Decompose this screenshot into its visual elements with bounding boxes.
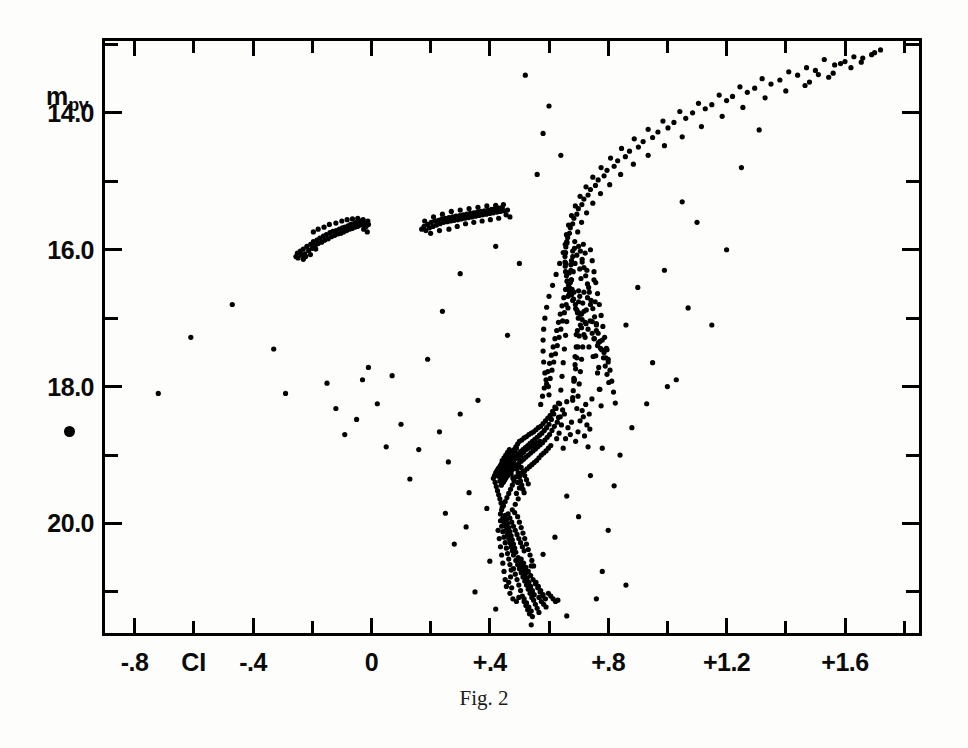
- figure-caption: Fig. 2: [0, 686, 968, 711]
- scatter-series-subgiant-branch: [510, 399, 570, 477]
- y-tick-left-20: [105, 522, 122, 525]
- y-tick-right-18: [902, 385, 919, 388]
- y-tick-left-13: [105, 43, 118, 46]
- y-tick-left-18: [105, 385, 122, 388]
- y-tick-right-14: [902, 111, 919, 114]
- size-reference-dot: [64, 426, 75, 437]
- y-tick-label-3: 20.0: [20, 509, 94, 538]
- y-tick-left-16: [105, 248, 122, 251]
- x-axis-title: CI: [181, 648, 206, 677]
- x-tick-label-0: -.8: [121, 648, 149, 677]
- y-tick-label-1: 16.0: [20, 235, 94, 264]
- y-tick-label-2: 18.0: [20, 372, 94, 401]
- x-tick-bottom-1.8: [903, 621, 906, 633]
- scatter-points-layer: [105, 41, 919, 633]
- y-tick-right-17: [906, 317, 919, 320]
- x-tick-bottom--0.6: [192, 621, 195, 633]
- x-tick-bottom--0.4: [252, 618, 255, 633]
- y-tick-label-0: 14.0: [20, 98, 94, 127]
- x-tick-top-0.2: [429, 41, 432, 53]
- x-tick-top-0.4: [488, 41, 491, 56]
- x-tick-bottom-0.2: [429, 621, 432, 633]
- x-tick-top--0.4: [252, 41, 255, 56]
- plot-frame: [102, 38, 922, 636]
- scatter-series-blue-horizontal-branch: [293, 216, 371, 262]
- scatter-series-red-horizontal-branch-clump: [419, 202, 512, 236]
- x-tick-top-0.6: [548, 41, 551, 53]
- y-tick-right-19: [906, 454, 919, 457]
- y-tick-left-19: [105, 454, 118, 457]
- y-tick-left-17: [105, 317, 118, 320]
- x-tick-top-1.6: [844, 41, 847, 56]
- y-tick-left-21: [105, 590, 118, 593]
- x-tick-top-1.2: [725, 41, 728, 56]
- x-tick-bottom-0.4: [488, 618, 491, 633]
- scatter-series-red-giant-branch: [562, 47, 883, 364]
- x-tick-bottom--0.8: [133, 618, 136, 633]
- y-tick-right-21: [906, 590, 919, 593]
- x-tick-label-1: -.4: [239, 648, 267, 677]
- x-tick-label-5: +1.2: [703, 648, 750, 677]
- y-tick-left-15: [105, 180, 118, 183]
- x-tick-top--0.6: [192, 41, 195, 53]
- scatter-series-field-stars-sparse: [156, 73, 762, 628]
- x-tick-bottom-1: [666, 621, 669, 633]
- x-tick-bottom-0: [370, 618, 373, 633]
- x-tick-bottom-1.2: [725, 618, 728, 633]
- x-tick-bottom--0.2: [311, 621, 314, 633]
- y-tick-right-16: [902, 248, 919, 251]
- y-tick-right-15: [906, 180, 919, 183]
- y-tick-right-13: [906, 43, 919, 46]
- x-tick-top-0.8: [607, 41, 610, 56]
- y-tick-left-14: [105, 111, 122, 114]
- scatter-plot-svg: [105, 41, 919, 633]
- x-tick-label-4: +.8: [591, 648, 625, 677]
- x-tick-label-6: +1.6: [821, 648, 868, 677]
- x-tick-top--0.8: [133, 41, 136, 56]
- x-tick-top-1.4: [784, 41, 787, 53]
- x-tick-top-1: [666, 41, 669, 53]
- x-tick-top--0.2: [311, 41, 314, 53]
- x-tick-label-2: 0: [365, 648, 378, 677]
- y-tick-right-20: [902, 522, 919, 525]
- x-tick-bottom-1.6: [844, 618, 847, 633]
- x-tick-top-0: [370, 41, 373, 56]
- x-tick-bottom-1.4: [784, 621, 787, 633]
- x-tick-bottom-0.8: [607, 618, 610, 633]
- x-tick-label-3: +.4: [473, 648, 507, 677]
- x-tick-bottom-0.6: [548, 621, 551, 633]
- figure-container: mpv CI Fig. 2 -.8-.40+.4+.8+1.2+1.614.01…: [0, 0, 968, 748]
